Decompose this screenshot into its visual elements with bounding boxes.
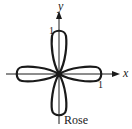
x-tick-label: 1 <box>98 80 103 90</box>
y-axis-label: y <box>58 0 63 12</box>
x-axis-arrow-icon <box>112 71 120 77</box>
x-axis-label: x <box>123 67 128 79</box>
rose-curve-plot <box>0 0 132 129</box>
rose-curve-figure: y x 1 1 Rose <box>0 0 132 129</box>
origin-point <box>56 71 62 77</box>
y-tick-label: 1 <box>49 26 54 36</box>
figure-caption: Rose <box>64 114 88 126</box>
